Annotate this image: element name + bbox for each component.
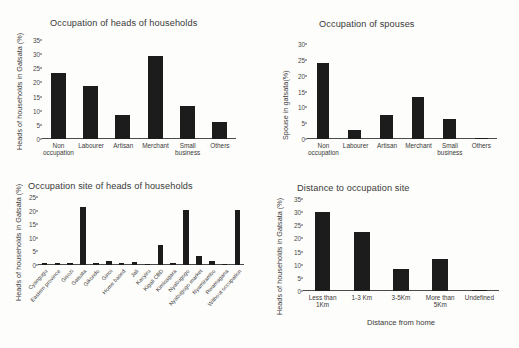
plot-area: 05101520253035	[303, 199, 499, 291]
bar-cell	[74, 40, 106, 139]
bar	[145, 264, 150, 266]
x-tick-label: Undefined	[460, 294, 499, 309]
bar	[317, 63, 330, 139]
bar-cell	[342, 199, 381, 291]
y-axis-label: Heads of households in Gatsata (%)	[275, 198, 284, 315]
y-axis-label: Heads of households in Gatsata (%)	[15, 33, 24, 150]
bar	[93, 263, 98, 265]
x-tick-label: Merchant	[403, 142, 434, 157]
bar	[80, 207, 85, 265]
x-axis-labels: Non occupationLabourerArtisanMerchantSma…	[307, 142, 497, 157]
bar-cell	[139, 40, 171, 139]
chart-panel-occupation-heads: Occupation of heads of households Heads …	[0, 0, 259, 175]
bar	[180, 106, 195, 139]
bar-cell	[231, 197, 244, 265]
x-tick-label: Labourer	[75, 142, 107, 157]
chart-title: Occupation site of heads of households	[28, 181, 193, 191]
x-tick-label: Labourer	[340, 142, 371, 157]
bar-cell	[102, 197, 115, 265]
bar	[354, 232, 370, 291]
bar	[380, 115, 393, 139]
bar	[443, 119, 456, 139]
plot-area: 05101520253035	[42, 40, 236, 139]
x-tick-label: Small business	[434, 142, 465, 157]
x-tick-label: Merchant	[139, 142, 171, 157]
x-tick-label: Artisan	[107, 142, 139, 157]
bar	[106, 261, 111, 265]
bar	[42, 263, 47, 265]
bar	[183, 210, 188, 265]
bar	[67, 263, 72, 265]
x-tick-label: Non occupation	[307, 142, 340, 157]
bar	[235, 210, 240, 265]
bar-cell	[218, 197, 231, 265]
x-tick-label: Less than 1Km	[303, 294, 342, 309]
bar	[115, 115, 130, 139]
bar	[348, 130, 361, 139]
x-tick-label: Small business	[172, 142, 204, 157]
bar-cell	[205, 197, 218, 265]
bar	[119, 263, 124, 265]
bar-cell	[381, 199, 420, 291]
figure-panel-grid: Occupation of heads of households Heads …	[0, 0, 519, 348]
bar	[196, 256, 201, 265]
bar	[132, 262, 137, 265]
bar-cell	[402, 44, 434, 139]
bar-series	[38, 197, 244, 265]
bar-cell	[90, 197, 103, 265]
bar-cell	[64, 197, 77, 265]
y-axis-label: Spouse in gatsata(%)	[281, 70, 290, 140]
bar-cell	[115, 197, 128, 265]
bar	[170, 263, 175, 265]
bar	[212, 122, 227, 139]
bar-cell	[107, 40, 139, 139]
bar-cell	[303, 199, 342, 291]
bar	[412, 97, 425, 139]
x-tick-label: 1-3 Km	[342, 294, 381, 309]
bar-cell	[51, 197, 64, 265]
y-axis-label: Heads of households in Gatsata (%)	[14, 184, 23, 301]
bar-cell	[180, 197, 193, 265]
bar-cell	[193, 197, 206, 265]
bar	[158, 245, 163, 265]
bar-series	[42, 40, 236, 139]
x-tick-label: More than 5Km	[421, 294, 460, 309]
bar-cell	[128, 197, 141, 265]
bar	[148, 56, 163, 139]
x-axis-title: Distance from home	[303, 318, 499, 327]
x-axis-labels: Less than 1Km1-3 Km3-5KmMore than 5KmUnd…	[303, 294, 499, 309]
bar-cell	[167, 197, 180, 265]
bar	[393, 269, 409, 291]
bar	[432, 259, 448, 291]
plot-area: 051015202530	[307, 44, 497, 139]
bar	[475, 138, 488, 140]
bar-cell	[154, 197, 167, 265]
chart-panel-occupation-spouses: Occupation of spouses Spouse in gatsata(…	[259, 0, 519, 175]
x-tick-label: 3-5Km	[381, 294, 420, 309]
x-tick-label: Artisan	[371, 142, 402, 157]
chart-title: Distance to occupation site	[297, 183, 410, 193]
x-tick-label: Others	[204, 142, 236, 157]
bar-cell	[434, 44, 466, 139]
bar	[83, 86, 98, 139]
bar-cell	[421, 199, 460, 291]
bar	[51, 73, 66, 139]
bar-cell	[38, 197, 51, 265]
bar-cell	[171, 40, 203, 139]
plot-area: 0510152025	[38, 197, 244, 265]
x-tick-label: Non occupation	[42, 142, 75, 157]
bar-cell	[307, 44, 339, 139]
bar-cell	[141, 197, 154, 265]
bar-series	[303, 199, 499, 291]
chart-panel-occupation-site: Occupation site of heads of households H…	[0, 175, 259, 348]
bar	[472, 290, 488, 292]
bar	[55, 263, 60, 265]
chart-title: Occupation of heads of households	[50, 18, 197, 28]
bar-cell	[339, 44, 371, 139]
bar-cell	[460, 199, 499, 291]
chart-panel-distance-to-site: Distance to occupation site Heads of hou…	[259, 175, 519, 348]
bar-cell	[204, 40, 236, 139]
bar	[209, 261, 214, 265]
chart-title: Occupation of spouses	[319, 19, 415, 29]
bar	[315, 212, 331, 291]
